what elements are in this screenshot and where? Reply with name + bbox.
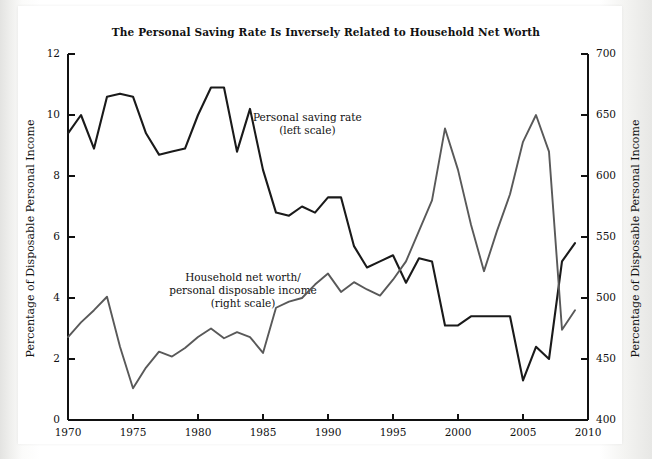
y-axis-right-tick-label: 650 <box>596 108 636 120</box>
axes-group <box>68 54 588 420</box>
series-line-personal-saving-rate <box>68 88 575 381</box>
y-axis-left-tick-label: 2 <box>26 352 60 364</box>
ticks-group <box>68 54 588 420</box>
y-axis-right-tick-label: 450 <box>596 352 636 364</box>
x-axis-tick-label: 1980 <box>175 426 221 438</box>
x-axis-tick-label: 2000 <box>435 426 481 438</box>
x-axis-tick-label: 2005 <box>500 426 546 438</box>
x-axis-tick-label: 1995 <box>370 426 416 438</box>
y-axis-right-tick-label: 700 <box>596 47 636 59</box>
y-axis-left-tick-label: 12 <box>26 47 60 59</box>
y-axis-left-tick-label: 0 <box>26 413 60 425</box>
y-axis-left-tick-label: 6 <box>26 230 60 242</box>
y-axis-left-tick-label: 10 <box>26 108 60 120</box>
series-line-household-net-worth <box>68 115 575 388</box>
y-axis-right-tick-label: 500 <box>596 291 636 303</box>
x-axis-tick-label: 2010 <box>565 426 611 438</box>
page-background: The Personal Saving Rate Is Inversely Re… <box>0 0 652 459</box>
x-axis-tick-label: 1975 <box>110 426 156 438</box>
x-axis-tick-label: 1970 <box>45 426 91 438</box>
y-axis-left-tick-label: 8 <box>26 169 60 181</box>
y-axis-right-tick-label: 600 <box>596 169 636 181</box>
x-axis-tick-label: 1990 <box>305 426 351 438</box>
series-lines-group <box>68 88 575 389</box>
y-axis-left-tick-label: 4 <box>26 291 60 303</box>
chart-figure: The Personal Saving Rate Is Inversely Re… <box>0 0 652 459</box>
plot-area <box>0 0 652 459</box>
y-axis-right-tick-label: 550 <box>596 230 636 242</box>
x-axis-tick-label: 1985 <box>240 426 286 438</box>
y-axis-right-tick-label: 400 <box>596 413 636 425</box>
